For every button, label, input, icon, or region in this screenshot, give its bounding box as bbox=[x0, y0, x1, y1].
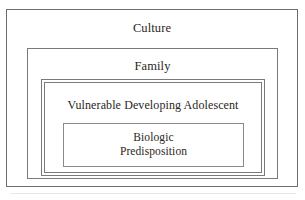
scan-artifact-baseline bbox=[10, 193, 296, 194]
culture-label: Culture bbox=[6, 21, 298, 36]
nested-levels-diagram: Culture Family Vulnerable Developing Ado… bbox=[0, 0, 305, 200]
adolescent-label: Vulnerable Developing Adolescent bbox=[44, 98, 262, 112]
family-label: Family bbox=[27, 59, 278, 74]
biologic-predisposition-label: Biologic Predisposition bbox=[63, 130, 244, 159]
